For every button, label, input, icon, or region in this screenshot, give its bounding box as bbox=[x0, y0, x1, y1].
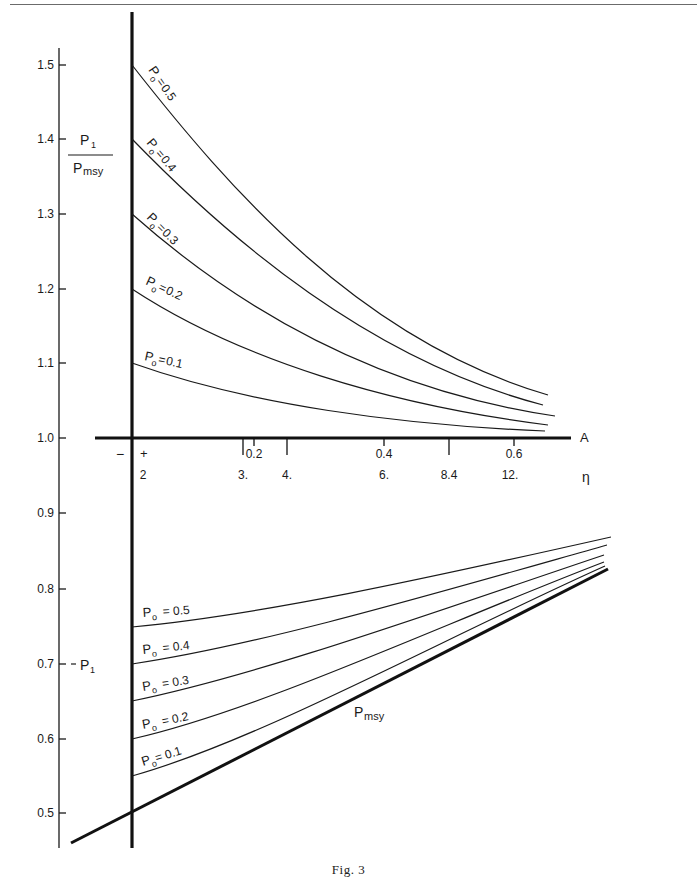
figure-3-chart: 1.5 1.4 1.3 1.2 1.1 1.0 0.9 0.8 0.7 0.6 … bbox=[0, 0, 697, 888]
upper-label-po-05: Po=0.5 bbox=[143, 63, 180, 105]
tick-label: 1.0 bbox=[37, 431, 54, 445]
tick-label: 1.5 bbox=[37, 58, 54, 72]
a-axis bbox=[95, 438, 571, 455]
p1-ylabel: P 1 bbox=[71, 657, 95, 675]
svg-text:o: o bbox=[151, 685, 158, 696]
svg-text:msy: msy bbox=[364, 710, 385, 722]
a-tick-label: 0.2 bbox=[246, 447, 263, 461]
p1-label-sub: 1 bbox=[90, 665, 95, 675]
left-axis-tick-labels: 1.5 1.4 1.3 1.2 1.1 1.0 0.9 0.8 0.7 0.6 … bbox=[37, 58, 54, 820]
ratio-denominator: P bbox=[73, 160, 82, 176]
upper-curve-po-05 bbox=[132, 65, 548, 395]
lower-label-po-04: Po= 0.4 bbox=[142, 637, 191, 660]
plus-sign: + bbox=[140, 446, 148, 461]
left-axis bbox=[59, 48, 66, 848]
eta-tick-label: 3. bbox=[238, 468, 248, 482]
lower-label-po-05: Po= 0.5 bbox=[142, 602, 190, 623]
a-axis-label: A bbox=[580, 430, 589, 445]
pmsy-label: P msy bbox=[354, 704, 385, 722]
svg-text:o: o bbox=[151, 358, 158, 369]
eta-tick-label: 6. bbox=[379, 468, 389, 482]
svg-text:0.1: 0.1 bbox=[165, 354, 185, 371]
ratio-numerator: P bbox=[80, 132, 89, 148]
svg-text:= 0.2: = 0.2 bbox=[161, 709, 191, 728]
svg-text:= 0.5: = 0.5 bbox=[162, 603, 190, 619]
svg-text:= 0.1: = 0.1 bbox=[153, 743, 183, 764]
svg-text:= 0.4: = 0.4 bbox=[162, 638, 191, 655]
upper-curve-po-03 bbox=[132, 214, 555, 416]
upper-curves bbox=[132, 65, 555, 431]
a-tick-label: 0.4 bbox=[376, 447, 393, 461]
tick-label: 0.5 bbox=[37, 806, 54, 820]
upper-label-po-04: Po=0.4 bbox=[141, 135, 180, 176]
ratio-numerator-sub: 1 bbox=[91, 140, 96, 150]
eta-tick-label: 8.4 bbox=[441, 468, 458, 482]
minus-sign: − bbox=[116, 446, 124, 462]
upper-curve-labels: Po=0.5 Po=0.4 Po=0.3 Po=0.2 Po=0.1 bbox=[141, 63, 185, 374]
svg-text:o: o bbox=[152, 649, 158, 659]
svg-text:P: P bbox=[142, 641, 152, 657]
upper-label-po-02: Po=0.2 bbox=[142, 273, 185, 306]
lower-curve-po-01 bbox=[132, 566, 605, 776]
svg-text:P: P bbox=[354, 704, 363, 720]
lower-curves bbox=[132, 537, 611, 776]
tick-label: 0.7 bbox=[37, 657, 54, 671]
p1-label: P bbox=[80, 657, 89, 673]
tick-label: 1.4 bbox=[37, 132, 54, 146]
tick-label: 1.2 bbox=[37, 282, 54, 296]
svg-text:o: o bbox=[151, 722, 158, 733]
eta-axis-label: η bbox=[582, 469, 590, 485]
tick-label: 0.8 bbox=[37, 582, 54, 596]
pmsy-line bbox=[71, 569, 608, 843]
ratio-ylabel: P 1 P msy bbox=[68, 132, 113, 177]
tick-label: 1.3 bbox=[37, 207, 54, 221]
upper-label-po-01: Po=0.1 bbox=[143, 348, 185, 374]
eta-tick-label: 2 bbox=[140, 468, 147, 482]
tick-label: 0.6 bbox=[37, 732, 54, 746]
figure-caption: Fig. 3 bbox=[0, 862, 697, 878]
a-tick-label: 0.6 bbox=[506, 447, 523, 461]
lower-curve-po-05 bbox=[132, 537, 611, 627]
eta-tick-label: 12. bbox=[502, 468, 519, 482]
tick-label: 1.1 bbox=[37, 356, 54, 370]
tick-label: 0.9 bbox=[37, 506, 54, 520]
upper-curve-po-02 bbox=[132, 289, 548, 425]
ratio-denominator-sub: msy bbox=[83, 165, 104, 177]
upper-curve-po-01 bbox=[132, 363, 545, 431]
svg-text:o: o bbox=[152, 612, 158, 622]
svg-text:P: P bbox=[142, 604, 152, 620]
upper-curve-po-04 bbox=[132, 139, 543, 405]
eta-tick-label: 4. bbox=[282, 468, 292, 482]
upper-label-po-03: Po=0.3 bbox=[142, 210, 182, 250]
